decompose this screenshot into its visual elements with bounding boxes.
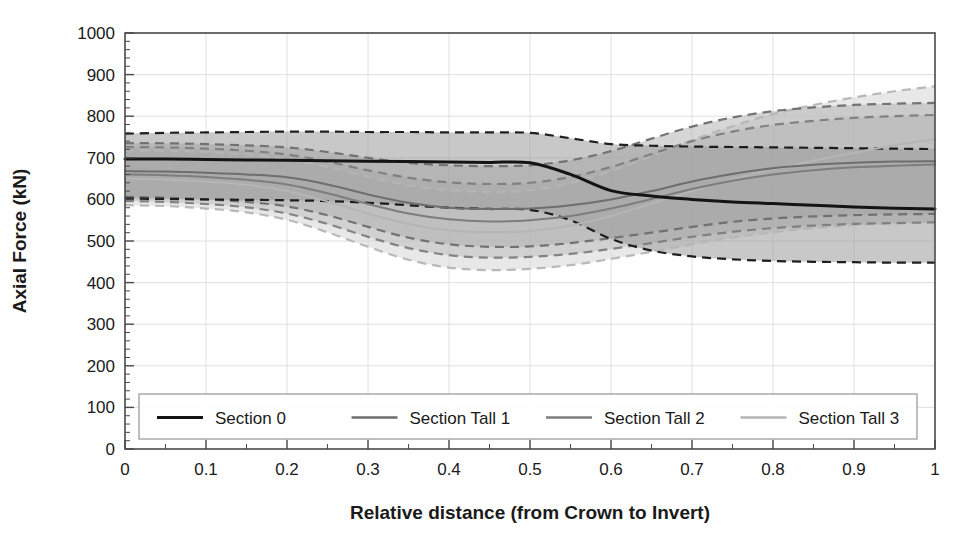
axial-force-chart: 00.10.20.30.40.50.60.70.80.91 0100200300…: [0, 0, 969, 551]
y-tick-label: 900: [87, 66, 115, 85]
y-tick-label: 400: [87, 274, 115, 293]
y-tick-label: 500: [87, 232, 115, 251]
x-axis-title: Relative distance (from Crown to Invert): [350, 502, 710, 523]
y-tick-label: 600: [87, 190, 115, 209]
x-tick-label: 0.2: [275, 460, 299, 479]
y-tick-label: 0: [106, 440, 115, 459]
x-tick-label: 0: [120, 460, 129, 479]
chart-figure: 00.10.20.30.40.50.60.70.80.91 0100200300…: [0, 0, 969, 551]
x-tick-label: 0.1: [194, 460, 218, 479]
x-tick-label: 0.3: [356, 460, 380, 479]
y-tick-label: 800: [87, 107, 115, 126]
y-tick-label: 200: [87, 357, 115, 376]
y-tick-label: 300: [87, 315, 115, 334]
x-tick-label: 0.8: [761, 460, 785, 479]
legend-label-1: Section Tall 1: [410, 409, 511, 428]
y-tick-label: 700: [87, 149, 115, 168]
x-tick-label: 0.5: [518, 460, 542, 479]
x-tick-label: 0.9: [842, 460, 866, 479]
y-tick-label: 1000: [77, 24, 115, 43]
x-tick-label: 0.6: [599, 460, 623, 479]
chart-background: [0, 0, 969, 551]
y-axis-title: Axial Force (kN): [9, 169, 30, 314]
x-tick-label: 1: [930, 460, 939, 479]
legend-label-2: Section Tall 2: [604, 409, 705, 428]
x-tick-label: 0.4: [437, 460, 461, 479]
y-tick-label: 100: [87, 398, 115, 417]
legend-label-0: Section 0: [215, 409, 286, 428]
chart-legend[interactable]: Section 0Section Tall 1Section Tall 2Sec…: [139, 394, 917, 439]
x-tick-label: 0.7: [680, 460, 704, 479]
legend-label-3: Section Tall 3: [799, 409, 900, 428]
